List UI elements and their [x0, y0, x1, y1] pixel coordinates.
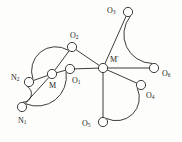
atom-node-M	[47, 69, 56, 78]
atom-label-O5: O5	[82, 119, 91, 129]
atom-symbol-Mp: M	[110, 55, 117, 64]
atom-subscript-O2: 2	[76, 34, 79, 40]
atom-prime-Mp: '	[117, 53, 118, 61]
bond-O2-Mp	[76, 50, 99, 65]
atom-label-O2: O2	[70, 31, 79, 41]
atom-subscript-O3: 3	[113, 9, 116, 15]
atom-node-Mp	[98, 63, 107, 72]
atom-subscript-O6: 6	[168, 72, 171, 78]
atom-label-M: M	[49, 81, 56, 90]
atom-node-O2	[67, 42, 76, 51]
atom-node-O5	[98, 117, 107, 126]
atom-label-N1: N1	[18, 116, 27, 126]
atom-label-O3: O3	[107, 6, 116, 16]
atom-label-O6: O6	[162, 69, 171, 79]
atom-subscript-N2: 2	[17, 76, 20, 82]
atom-node-O1	[65, 64, 74, 73]
structure-diagram: N2N1MO1O2M'O3O6O4O5	[0, 0, 182, 142]
bond-Mp-O4	[108, 70, 137, 83]
atom-node-O3	[123, 7, 132, 16]
atom-label-O1: O1	[72, 76, 81, 86]
atom-label-Mp: M'	[110, 53, 118, 63]
bond-O3-O6-arc	[124, 17, 152, 64]
atom-label-O4: O4	[146, 91, 155, 101]
atom-node-layer	[17, 7, 158, 126]
atom-subscript-N1: 1	[24, 119, 27, 125]
bond-O1-Mp	[75, 68, 98, 69]
atom-subscript-O4: 4	[152, 94, 155, 100]
bond-O5-O4-arc	[107, 88, 140, 120]
bond-N2-M	[34, 76, 48, 81]
atom-symbol-M: M	[49, 81, 56, 90]
atom-node-N1	[17, 102, 26, 111]
bond-line-layer	[25, 17, 149, 117]
structure-canvas: N2N1MO1O2M'O3O6O4O5	[0, 0, 182, 142]
atom-node-O4	[136, 80, 145, 89]
atom-subscript-O5: 5	[88, 122, 91, 128]
atom-label-layer: N2N1MO1O2M'O3O6O4O5	[11, 6, 171, 129]
bond-N2-N1-arc	[23, 87, 31, 102]
atom-subscript-O1: 1	[78, 79, 81, 85]
bond-M-O1	[57, 70, 65, 72]
atom-node-O6	[149, 63, 158, 72]
atom-label-N2: N2	[11, 73, 20, 83]
atom-node-N2	[24, 77, 33, 86]
